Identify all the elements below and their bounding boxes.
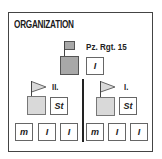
panel-title: ORGANIZATION	[14, 19, 74, 30]
battalion-ii-company-box: I	[38, 123, 56, 141]
battalion-i-company-box: I	[108, 123, 126, 141]
regiment-hq-box	[60, 56, 79, 75]
battalion-ii-company-box: m	[15, 123, 33, 141]
battalion-ii-hq-box	[27, 96, 46, 115]
battalion-i-company-box: m	[86, 123, 104, 141]
battalion-ii-pennant-icon	[31, 81, 47, 97]
regiment-flag-icon	[64, 41, 75, 50]
regiment-flag-pole	[64, 41, 65, 57]
battalion-i-label: I.	[124, 82, 128, 92]
battalion-ii-label: II.	[52, 82, 58, 92]
battalion-i-company-box: I	[130, 123, 148, 141]
regiment-label: Pz. Rgt. 15	[86, 41, 127, 52]
regiment-staff-box: I	[86, 57, 104, 75]
battalion-divider	[82, 79, 84, 142]
battalion-i-staff-box: St	[119, 97, 137, 115]
battalion-ii-staff-box: St	[50, 97, 68, 115]
battalion-ii-company-box: I	[60, 123, 78, 141]
battalion-i-pennant-icon	[100, 81, 116, 97]
battalion-i-hq-box	[96, 97, 115, 116]
